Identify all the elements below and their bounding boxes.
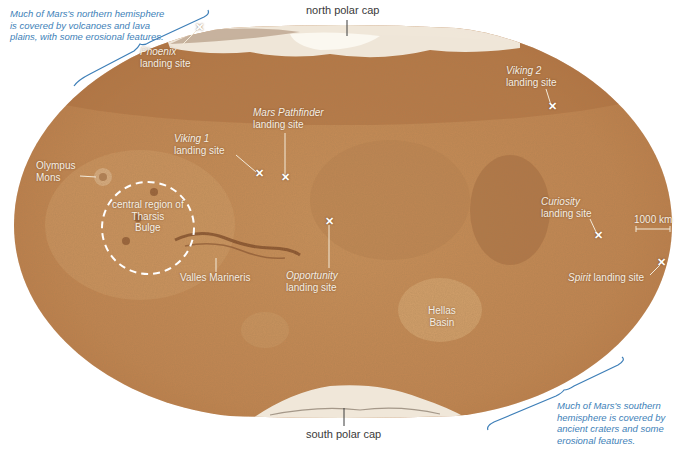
- scale-bar-label: 1000 km: [634, 214, 672, 226]
- spirit-marker-icon: ✕: [656, 257, 666, 268]
- curiosity-label: Curiosity landing site: [541, 196, 592, 219]
- tharsis-bulge-label: central region of Tharsis Bulge: [112, 199, 184, 234]
- phoenix-marker-icon: ✕: [194, 22, 204, 33]
- curiosity-marker-icon: ✕: [593, 230, 603, 241]
- south-hemisphere-note: Much of Mars's southern hemisphere is co…: [557, 400, 665, 446]
- opportunity-marker-icon: ✕: [324, 216, 334, 227]
- viking1-marker-icon: ✕: [254, 168, 264, 179]
- viking2-marker-icon: ✕: [547, 101, 557, 112]
- viking2-label: Viking 2 landing site: [506, 65, 557, 88]
- south-polar-cap-label: south polar cap: [306, 428, 381, 440]
- mars-map: [0, 0, 680, 451]
- north-polar-cap-label: north polar cap: [306, 4, 379, 16]
- viking1-label: Viking 1 landing site: [174, 133, 225, 156]
- opportunity-label: Opportunity landing site: [286, 270, 338, 293]
- hellas-basin-label: Hellas Basin: [428, 305, 456, 328]
- phoenix-label: Phoenix landing site: [140, 46, 191, 69]
- valles-marineris-label: Valles Marineris: [180, 272, 250, 284]
- north-hemisphere-note: Much of Mars's northern hemisphere is co…: [10, 8, 164, 43]
- olympus-mons-label: Olympus Mons: [36, 160, 75, 183]
- pathfinder-label: Mars Pathfinder landing site: [253, 107, 324, 130]
- spirit-label: Spirit landing site: [568, 272, 644, 284]
- pathfinder-marker-icon: ✕: [280, 172, 290, 183]
